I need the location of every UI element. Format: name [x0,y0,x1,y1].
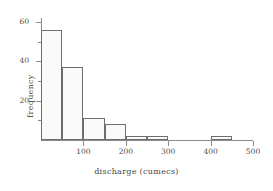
plot-area: 204060 100200300400500 [41,18,253,140]
x-tick-major [168,141,169,146]
x-axis-line [41,140,253,141]
histogram-bar [126,136,147,140]
x-tick-major [253,141,254,146]
histogram-bar [211,136,232,140]
x-tick-label: 200 [119,148,133,156]
x-tick-label: 500 [246,148,260,156]
x-axis-title: discharge (cumecs) [0,167,273,176]
x-tick-major [211,141,212,146]
histogram-bar [41,30,62,140]
y-tick-major: 60 [36,22,41,23]
histogram-bar [105,124,126,140]
x-tick-label: 300 [161,148,175,156]
y-tick-label: 60 [19,18,29,26]
x-tick-major [126,141,127,146]
histogram-chart: 204060 100200300400500 frequency dischar… [0,0,273,191]
histogram-bar [147,136,168,140]
y-tick-label: 40 [19,58,29,66]
x-tick-major [83,141,84,146]
histogram-bar [83,118,104,140]
x-tick-label: 400 [203,148,217,156]
histogram-bar [62,67,83,140]
y-axis-title: frequency [26,74,35,117]
x-tick-label: 100 [76,148,90,156]
